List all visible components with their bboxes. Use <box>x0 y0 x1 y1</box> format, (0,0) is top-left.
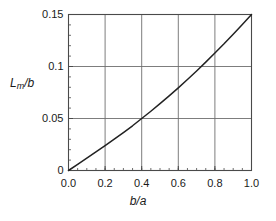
y-tick-label: 0.05 <box>42 112 63 124</box>
x-tick-label: 1.0 <box>232 177 272 189</box>
x-tick-label: 0.0 <box>49 177 89 189</box>
y-axis-label-rest: /b <box>24 76 34 90</box>
y-tick-label: 0 <box>57 164 63 176</box>
x-tick-label: 0.2 <box>85 177 125 189</box>
y-axis-label: Lm/b <box>10 76 34 91</box>
x-axis-label: b/a <box>0 194 276 208</box>
x-tick-label: 0.8 <box>195 177 235 189</box>
x-tick-label: 0.6 <box>158 177 198 189</box>
x-tick-label: 0.4 <box>122 177 162 189</box>
y-axis-label-base: L <box>10 76 17 90</box>
y-tick-label: 0.15 <box>42 8 63 20</box>
chart-figure: 00.050.10.15 0.00.20.40.60.81.0 Lm/b b/a <box>0 0 276 221</box>
y-tick-label: 0.1 <box>48 60 63 72</box>
